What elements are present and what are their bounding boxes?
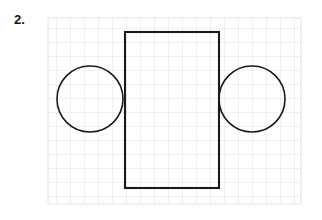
worksheet-canvas: 2. — [0, 0, 322, 220]
grid-background — [48, 18, 301, 204]
geometry-figure — [0, 0, 322, 220]
grid-paper — [48, 18, 301, 204]
